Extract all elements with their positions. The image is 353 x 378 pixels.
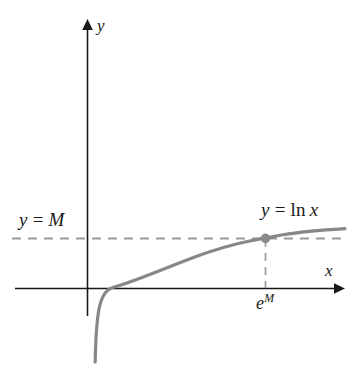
ln-curve (95, 229, 345, 362)
y-axis-label: y (97, 17, 105, 34)
x-tick-label-base: e (256, 293, 264, 313)
curve-label-function: ln (291, 199, 306, 220)
math-figure-ln-x: y x y=M y=lnx eM (0, 0, 353, 378)
x-axis-arrowhead (334, 283, 345, 294)
y-axis (82, 19, 93, 316)
curve-label-variable: y (261, 199, 270, 220)
curve-label-y-equals-ln-x: y=lnx (261, 200, 318, 219)
curve-label-argument: x (310, 199, 319, 220)
graph-canvas (0, 0, 353, 378)
intersection-point-marker (261, 234, 270, 243)
y-axis-label-text: y (97, 16, 105, 35)
asymptote-label-variable: y (19, 209, 28, 230)
curve-label-equals: = (275, 199, 286, 220)
x-axis-label-text: x (325, 261, 333, 280)
asymptote-label-y-equals-m: y=M (19, 210, 65, 229)
x-tick-label-e-to-the-m: eM (256, 294, 274, 312)
asymptote-label-equals: = (33, 209, 44, 230)
asymptote-label-constant: M (49, 209, 65, 230)
x-tick-label-exponent: M (264, 291, 274, 305)
y-axis-arrowhead (82, 19, 93, 30)
x-axis-label: x (325, 262, 333, 279)
x-axis (15, 283, 345, 294)
